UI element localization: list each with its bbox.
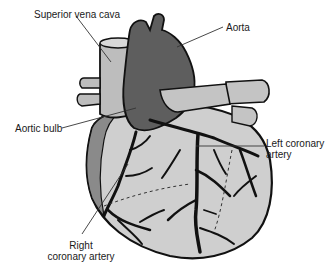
heart-illustration — [0, 0, 331, 271]
label-aorta: Aorta — [226, 22, 250, 33]
pulmonary-vein — [232, 106, 257, 126]
label-aortic-bulb: Aortic bulb — [15, 123, 62, 134]
pulmonary-artery-branch — [226, 80, 269, 104]
heart-body — [87, 103, 272, 258]
label-left-coronary-line2: artery — [266, 149, 324, 160]
label-right-coronary-line2: coronary artery — [46, 251, 116, 262]
label-superior-vena-cava: Superior vena cava — [34, 9, 120, 20]
label-right-coronary-line1: Right — [46, 240, 116, 251]
label-right-coronary-artery: Right coronary artery — [46, 240, 116, 262]
label-left-coronary-artery: Left coronary artery — [266, 138, 324, 160]
heart-diagram: Superior vena cava Aorta Aortic bulb Lef… — [0, 0, 331, 271]
label-left-coronary-line1: Left coronary — [266, 138, 324, 149]
